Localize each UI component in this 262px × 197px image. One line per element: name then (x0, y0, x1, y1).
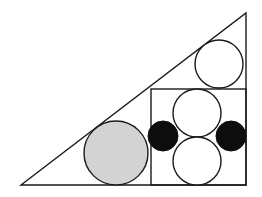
square-lower-white-circle (173, 137, 221, 185)
top-white-circle (195, 40, 243, 88)
right-black-circle (216, 121, 246, 151)
left-black-circle (148, 121, 178, 151)
square-upper-white-circle (173, 89, 221, 137)
geometry-figure (0, 0, 262, 197)
gray-circle (84, 121, 148, 185)
figure-canvas (0, 0, 262, 197)
